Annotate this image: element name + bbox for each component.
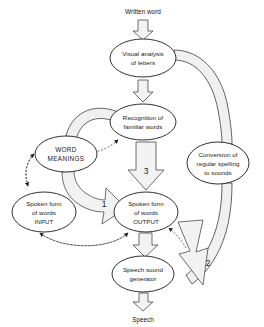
dashed-link-input-to-output xyxy=(40,233,128,246)
arrow-written-word-to-visual-analysis xyxy=(133,20,153,40)
arrow-speech-generator-to-speech xyxy=(133,293,153,311)
node-recognition-line-1: Recognition of xyxy=(123,114,163,121)
node-visual-analysis-line-2: of letters xyxy=(131,59,155,66)
node-conversion-line-2: regular spelling xyxy=(197,160,240,167)
node-word-meanings[interactable] xyxy=(35,136,97,172)
node-input-line-3: INPUT xyxy=(35,218,54,225)
node-word-meanings-line-1: WORD xyxy=(55,146,77,153)
node-input-line-2: of words xyxy=(32,209,56,216)
dashed-link-input-to-word-meanings xyxy=(26,154,34,186)
node-speech-generator-line-2: generator xyxy=(130,275,157,282)
route-2-number: 2 xyxy=(206,258,211,268)
reading-speech-model-diagram: 2 1 3 xyxy=(0,0,264,327)
route-3-number: 3 xyxy=(144,166,149,176)
route-1-number: 1 xyxy=(102,199,107,209)
node-visual-analysis-line-1: Visual analysis xyxy=(122,50,164,57)
node-visual-analysis[interactable] xyxy=(110,39,176,77)
node-output-line-2: of words xyxy=(134,209,158,216)
node-input-line-1: Spoken form xyxy=(26,200,62,207)
arrow-visual-analysis-to-recognition xyxy=(133,80,153,102)
band-visual-to-conversion xyxy=(174,50,232,144)
node-word-meanings-line-2: MEANINGS xyxy=(48,155,85,162)
node-output-line-1: Spoken form xyxy=(128,200,164,207)
diagram-canvas: 2 1 3 xyxy=(0,0,264,327)
dashed-link-word-meanings-recognition xyxy=(94,140,118,152)
dashed-link-output-to-input xyxy=(40,233,128,246)
node-recognition-familiar-words[interactable] xyxy=(110,104,176,140)
node-recognition-line-2: familiar words xyxy=(124,123,163,130)
dashed-link-word-meanings-to-input xyxy=(26,154,34,186)
label-speech: Speech xyxy=(132,316,154,324)
label-written-word: Written word xyxy=(125,8,161,15)
node-conversion-line-3: to sounds xyxy=(204,169,231,176)
node-conversion-line-1: Conversion of xyxy=(199,151,238,158)
arrow-output-to-speech-generator xyxy=(133,233,158,257)
node-speech-generator-line-1: Speech sound xyxy=(123,266,164,273)
node-output-line-3: OUTPUT xyxy=(133,218,159,225)
node-speech-sound-generator[interactable] xyxy=(112,256,174,292)
